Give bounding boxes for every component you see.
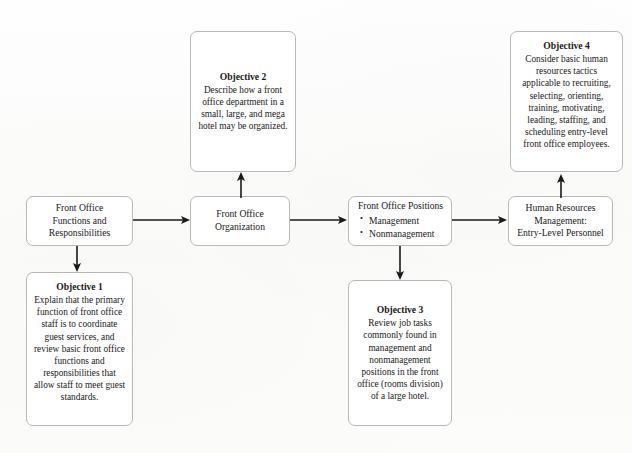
arrow-positions-to-human-resources-icon	[452, 212, 510, 228]
list-item: Management	[369, 215, 445, 228]
objective-3-title: Objective 3	[377, 304, 424, 316]
human-resources-management-line-1: Human Resources	[525, 202, 595, 215]
list-item: Nonmanagement	[369, 228, 445, 241]
arrow-functions-to-organization-icon	[133, 212, 193, 228]
human-resources-management-line-3: Entry-Level Personnel	[517, 227, 604, 240]
front-office-functions-line-1: Front Office	[56, 202, 104, 215]
objective-2-body: Describe how a front office department i…	[197, 84, 289, 132]
front-office-positions-box: Front Office Positions Management Nonman…	[348, 196, 452, 246]
arrow-organization-to-objective-2-icon	[233, 170, 249, 198]
objective-1-box: Objective 1 Explain that the primary fun…	[26, 272, 133, 426]
front-office-organization-box: Front Office Organization	[190, 196, 290, 246]
arrow-organization-to-positions-icon	[290, 212, 350, 228]
diagram-canvas: Objective 2 Describe how a front office …	[0, 0, 632, 453]
objective-2-title: Objective 2	[220, 71, 267, 83]
objective-1-title: Objective 1	[56, 281, 103, 293]
front-office-organization-line-2: Organization	[215, 221, 265, 234]
objective-4-box: Objective 4 Consider basic human resourc…	[510, 31, 623, 172]
human-resources-management-line-2: Management:	[534, 215, 587, 228]
arrow-human-resources-to-objective-4-icon	[553, 172, 569, 198]
front-office-positions-list: Management Nonmanagement	[358, 214, 445, 243]
objective-2-box: Objective 2 Describe how a front office …	[190, 31, 296, 172]
objective-4-body: Consider basic human resources tactics a…	[517, 53, 616, 150]
arrow-positions-to-objective-3-icon	[392, 246, 408, 282]
front-office-positions-lead: Front Office Positions	[358, 200, 445, 213]
front-office-functions-line-2: Functions and	[52, 215, 106, 228]
arrow-functions-to-objective-1-icon	[69, 246, 85, 274]
front-office-functions-box: Front Office Functions and Responsibilit…	[26, 196, 133, 246]
front-office-functions-line-3: Responsibilities	[49, 227, 110, 240]
human-resources-management-box: Human Resources Management: Entry-Level …	[508, 196, 613, 246]
objective-3-box: Objective 3 Review job tasks commonly fo…	[348, 280, 452, 426]
objective-3-body: Review job tasks commonly found in manag…	[355, 317, 445, 402]
front-office-organization-line-1: Front Office	[216, 208, 264, 221]
objective-1-body: Explain that the primary function of fro…	[33, 294, 126, 403]
objective-4-title: Objective 4	[543, 40, 590, 52]
